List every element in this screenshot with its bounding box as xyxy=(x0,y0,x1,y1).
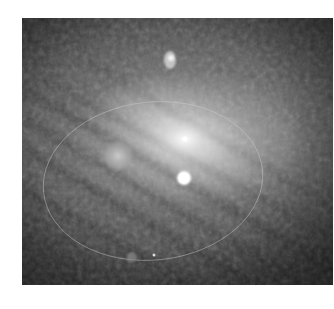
galaxy-image xyxy=(22,18,333,285)
core-point xyxy=(183,137,188,142)
diffuse-glow xyxy=(101,139,135,173)
small-blob xyxy=(127,252,137,262)
small-spiral-galaxy xyxy=(164,51,176,69)
bright-star-core xyxy=(179,173,190,184)
small-star xyxy=(153,254,156,257)
galaxy-image-layers xyxy=(22,18,333,285)
